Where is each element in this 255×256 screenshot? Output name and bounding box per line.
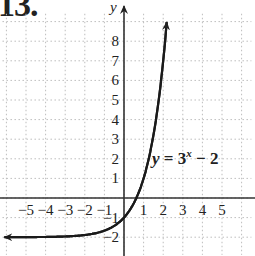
svg-text:8: 8 (112, 33, 120, 49)
svg-text:6: 6 (112, 72, 120, 88)
grid-lines (2, 14, 251, 255)
svg-text:2: 2 (159, 202, 167, 218)
svg-text:2: 2 (112, 151, 120, 167)
svg-text:5: 5 (112, 92, 120, 108)
svg-text:−2: −2 (77, 202, 93, 218)
svg-text:4: 4 (199, 202, 207, 218)
svg-text:4: 4 (112, 112, 120, 128)
svg-text:3: 3 (179, 202, 187, 218)
svg-text:−4: −4 (38, 202, 54, 218)
svg-text:1: 1 (140, 202, 148, 218)
svg-text:−2: −2 (103, 229, 119, 245)
svg-text:−5: −5 (18, 202, 34, 218)
axes (0, 6, 255, 256)
svg-text:7: 7 (112, 53, 120, 69)
svg-text:−3: −3 (57, 202, 73, 218)
svg-text:1: 1 (112, 170, 120, 186)
function-graph: −5−4−3−2−11234512345678−1−2 y y = 3x − 2 (0, 0, 255, 256)
y-axis-label: y (108, 0, 117, 15)
equation-label: y = 3x − 2 (150, 147, 218, 168)
svg-text:5: 5 (218, 202, 226, 218)
svg-text:3: 3 (112, 131, 120, 147)
